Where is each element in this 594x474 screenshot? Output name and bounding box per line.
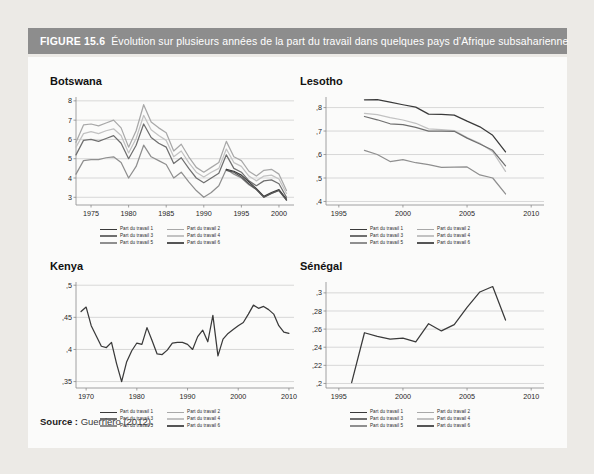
y-tick-label: ,6: [316, 150, 322, 159]
legend-botswana: Part du travail 1Part du travail 2Part d…: [100, 227, 220, 246]
x-tick-label: 1995: [331, 209, 347, 218]
legend-label: Part du travail 4: [187, 234, 220, 239]
y-tick-label: 3: [68, 193, 72, 202]
x-tick-label: 2010: [523, 209, 539, 218]
legend-swatch: [167, 418, 184, 420]
legend-item: Part du travail 6: [417, 424, 470, 429]
figure-panel: Botswana 345678197519801985199019952000 …: [28, 57, 567, 448]
legend-swatch: [417, 235, 434, 237]
legend-item: Part du travail 1: [100, 227, 153, 232]
legend-label: Part du travail 6: [437, 241, 470, 246]
plot-area-lesotho: ,4,5,6,7,81995200020052010: [300, 91, 550, 221]
legend-grid: Part du travail 1Part du travail 2Part d…: [100, 227, 220, 246]
legend-label: Part du travail 3: [370, 234, 403, 239]
series-line: [352, 287, 506, 383]
legend-swatch: [417, 242, 434, 244]
legend-label: Part du travail 5: [370, 424, 403, 429]
y-tick-label: ,22: [312, 361, 322, 370]
series-line: [364, 150, 505, 194]
legend-label: Part du travail 5: [120, 241, 153, 246]
y-tick-label: ,45: [62, 313, 72, 322]
source-label: Source :: [40, 416, 78, 427]
legend-swatch: [100, 412, 117, 414]
x-tick-label: 2005: [459, 209, 475, 218]
legend-label: Part du travail 4: [437, 417, 470, 422]
x-tick-label: 2000: [271, 209, 287, 218]
legend-label: Part du travail 3: [120, 234, 153, 239]
legend-label: Part du travail 4: [187, 417, 220, 422]
legend-item: Part du travail 5: [100, 241, 153, 246]
legend-item: Part du travail 3: [100, 234, 153, 239]
series-line: [76, 145, 286, 200]
chart-svg-kenya: ,35,4,45,519701980199020002010: [50, 276, 300, 404]
figure-title-bar: FIGURE 15.6 Évolution sur plusieurs anné…: [28, 28, 567, 54]
legend-label: Part du travail 1: [120, 227, 153, 232]
legend-swatch: [350, 418, 367, 420]
legend-label: Part du travail 1: [370, 410, 403, 415]
legend-label: Part du travail 2: [437, 410, 470, 415]
y-tick-label: ,5: [66, 281, 72, 290]
legend-label: Part du travail 6: [437, 424, 470, 429]
legend-item: Part du travail 2: [417, 227, 470, 232]
y-tick-label: 5: [68, 154, 72, 163]
legend-swatch: [350, 425, 367, 427]
legend-item: Part du travail 1: [350, 227, 403, 232]
y-tick-label: 4: [68, 174, 72, 183]
x-tick-label: 1995: [233, 209, 249, 218]
legend-swatch: [167, 235, 184, 237]
legend-label: Part du travail 4: [437, 234, 470, 239]
legend-label: Part du travail 1: [120, 410, 153, 415]
y-tick-label: ,28: [312, 307, 322, 316]
legend-label: Part du travail 2: [187, 227, 220, 232]
legend-swatch: [100, 242, 117, 244]
plot-area-botswana: 345678197519801985199019952000: [50, 91, 300, 221]
legend-swatch: [350, 412, 367, 414]
x-tick-label: 2000: [395, 392, 411, 401]
y-tick-label: ,5: [316, 174, 322, 183]
legend-label: Part du travail 5: [370, 241, 403, 246]
legend-label: Part du travail 6: [187, 424, 220, 429]
legend-item: Part du travail 6: [417, 241, 470, 246]
chart-senegal: Sénégal ,2,22,24,26,28,31995200020052010…: [300, 260, 550, 450]
x-tick-label: 1970: [78, 392, 94, 401]
chart-lesotho: Lesotho ,4,5,6,7,81995200020052010 Part …: [300, 75, 550, 271]
legend-swatch: [167, 229, 184, 231]
x-tick-label: 2005: [459, 392, 475, 401]
legend-item: Part du travail 3: [350, 234, 403, 239]
x-tick-label: 2010: [523, 392, 539, 401]
y-tick-label: ,8: [316, 103, 322, 112]
legend-swatch: [350, 242, 367, 244]
x-tick-label: 1985: [158, 209, 174, 218]
x-tick-label: 1975: [83, 209, 99, 218]
series-line: [81, 305, 289, 381]
x-tick-label: 1995: [331, 392, 347, 401]
legend-item: Part du travail 4: [417, 234, 470, 239]
legend-item: Part du travail 5: [350, 241, 403, 246]
legend-item: Part du travail 6: [167, 424, 220, 429]
y-tick-label: 6: [68, 135, 72, 144]
legend-swatch: [417, 412, 434, 414]
series-line: [76, 124, 286, 197]
legend-label: Part du travail 1: [370, 227, 403, 232]
chart-title-kenya: Kenya: [50, 260, 83, 272]
legend-item: Part du travail 4: [417, 417, 470, 422]
legend-swatch: [350, 229, 367, 231]
legend-item: Part du travail 2: [417, 410, 470, 415]
legend-item: Part du travail 2: [167, 227, 220, 232]
legend-label: Part du travail 2: [437, 227, 470, 232]
y-tick-label: 8: [68, 96, 72, 105]
legend-swatch: [417, 425, 434, 427]
x-tick-label: 1980: [129, 392, 145, 401]
legend-item: Part du travail 3: [350, 417, 403, 422]
legend-label: Part du travail 3: [370, 417, 403, 422]
figure-root: FIGURE 15.6 Évolution sur plusieurs anné…: [0, 0, 594, 474]
y-tick-label: ,4: [66, 345, 72, 354]
y-tick-label: ,24: [312, 343, 322, 352]
legend-item: Part du travail 6: [167, 241, 220, 246]
legend-swatch: [350, 235, 367, 237]
legend-item: Part du travail 1: [100, 410, 153, 415]
legend-swatch: [100, 229, 117, 231]
y-tick-label: ,4: [316, 197, 322, 206]
chart-svg-senegal: ,2,22,24,26,28,31995200020052010: [300, 276, 550, 404]
chart-svg-botswana: 345678197519801985199019952000: [50, 91, 300, 221]
